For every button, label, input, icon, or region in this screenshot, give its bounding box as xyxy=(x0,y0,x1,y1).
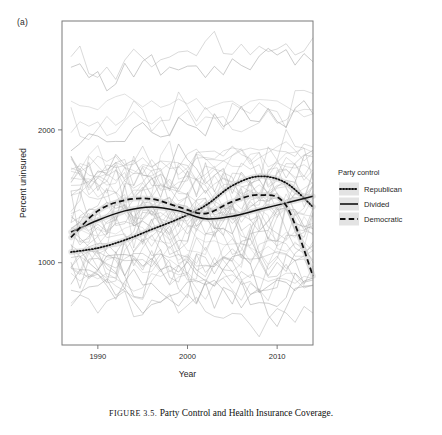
state-trajectory xyxy=(71,90,313,139)
figure-caption: FIGURE 3.5. Party Control and Health Ins… xyxy=(0,408,442,418)
state-trajectory xyxy=(71,101,313,151)
state-trajectory xyxy=(71,269,313,326)
y-tick-label: 2000 xyxy=(38,126,55,135)
chart-canvas: 19902000201010002000YearPercent uninsure… xyxy=(0,0,442,435)
y-tick-label: 1000 xyxy=(38,258,55,267)
state-trajectory xyxy=(71,291,313,337)
figure-container: (a) 19902000201010002000YearPercent unin… xyxy=(0,0,442,435)
state-trajectory xyxy=(71,142,313,174)
figure-caption-text: Party Control and Health Insurance Cover… xyxy=(160,408,333,418)
legend-label-democratic: Democratic xyxy=(364,215,403,224)
y-axis-title: Percent uninsured xyxy=(18,148,28,218)
state-trajectory xyxy=(71,232,313,277)
state-trajectory xyxy=(71,188,313,269)
axes-group: 19902000201010002000YearPercent uninsure… xyxy=(18,126,286,379)
state-trajectory xyxy=(71,48,313,91)
legend-label-republican: Republican xyxy=(364,185,402,194)
x-axis-title: Year xyxy=(179,369,197,379)
legend-title: Party control xyxy=(338,168,380,177)
x-tick-label: 1990 xyxy=(89,352,106,361)
x-tick-label: 2000 xyxy=(179,352,196,361)
chart-legend: Party controlRepublicanDividedDemocratic xyxy=(338,168,403,226)
state-trajectory xyxy=(71,31,313,79)
legend-label-divided: Divided xyxy=(364,200,389,209)
figure-number: FIGURE 3.5. xyxy=(109,409,157,418)
x-tick-label: 2010 xyxy=(269,352,286,361)
state-trajectory xyxy=(71,94,313,112)
state-trajectories-group xyxy=(71,31,313,336)
